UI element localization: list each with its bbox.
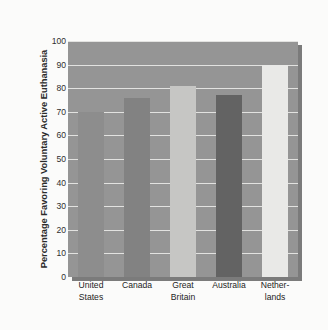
x-tick-label-line1: Nether-	[261, 280, 290, 290]
x-tick-label-line1: Great	[172, 280, 194, 290]
x-tick-label: Canada	[114, 280, 160, 303]
x-tick-label-line2: Britain	[160, 292, 206, 304]
bar-slot	[114, 41, 160, 277]
y-tick-label: 40	[44, 178, 66, 187]
x-tick-label: Nether-lands	[252, 280, 298, 303]
x-tick-label-line2: States	[68, 292, 114, 304]
plot-area	[68, 41, 298, 277]
bar	[78, 112, 104, 277]
y-tick-label: 30	[44, 202, 66, 211]
y-tick-label: 10	[44, 249, 66, 258]
bar-series	[68, 41, 298, 277]
y-tick-label: 50	[44, 155, 66, 164]
bar	[216, 95, 242, 277]
x-tick-label: UnitedStates	[68, 280, 114, 303]
y-tick-label: 0	[44, 273, 66, 282]
bar	[124, 98, 150, 277]
y-tick-label: 20	[44, 226, 66, 235]
bar-slot	[68, 41, 114, 277]
y-tick-label: 100	[44, 37, 66, 46]
x-tick-label-line1: United	[79, 280, 104, 290]
bar-slot	[252, 41, 298, 277]
x-tick-label-line2: lands	[252, 292, 298, 304]
bar	[262, 65, 288, 277]
x-tick-label: GreatBritain	[160, 280, 206, 303]
x-tick-label-line1: Canada	[122, 280, 152, 290]
x-tick-label: Australia	[206, 280, 252, 303]
bar-chart-figure: Percentage Favoring Voluntary Active Eut…	[0, 0, 328, 330]
y-axis-tick-labels: 1009080706050403020100	[44, 41, 66, 277]
bar	[170, 86, 196, 277]
x-tick-label-line1: Australia	[212, 280, 245, 290]
y-tick-label: 70	[44, 108, 66, 117]
y-tick-label: 90	[44, 60, 66, 69]
x-axis-tick-labels: UnitedStatesCanadaGreatBritainAustraliaN…	[68, 280, 298, 303]
y-tick-label: 80	[44, 84, 66, 93]
bar-slot	[160, 41, 206, 277]
bar-slot	[206, 41, 252, 277]
y-tick-label: 60	[44, 131, 66, 140]
